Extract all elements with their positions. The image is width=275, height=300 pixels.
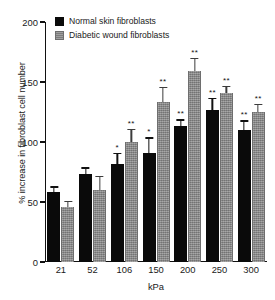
bar-group: ****	[235, 22, 267, 262]
significance-marker: **	[128, 120, 135, 127]
x-tick-label: 21	[45, 264, 77, 275]
error-bar	[99, 176, 100, 190]
bar-slot: *	[143, 22, 156, 262]
bar[interactable]: *	[143, 153, 156, 262]
bar-group	[77, 22, 109, 262]
x-tick-label: 106	[108, 264, 140, 275]
error-bar	[194, 58, 195, 71]
bar-slot: **	[174, 22, 187, 262]
x-tick-label: 250	[204, 264, 236, 275]
x-axis-ticks: 2152106150200250300	[45, 264, 267, 275]
error-bar	[131, 129, 132, 142]
bar[interactable]: *	[111, 164, 124, 262]
bar[interactable]: **	[157, 102, 170, 262]
error-bar	[180, 119, 181, 126]
y-tick-label: 0	[33, 257, 38, 268]
bar[interactable]: **	[238, 130, 251, 262]
significance-marker: *	[116, 144, 120, 151]
bar[interactable]: **	[188, 71, 201, 262]
error-bar	[244, 120, 245, 130]
significance-marker: **	[160, 78, 167, 85]
significance-marker: **	[255, 95, 262, 102]
bar-group: ****	[172, 22, 204, 262]
bar-slot	[79, 22, 92, 262]
bar-group: ***	[140, 22, 172, 262]
x-tick-label: 150	[140, 264, 172, 275]
bar-slot	[61, 22, 74, 262]
error-bar	[53, 186, 54, 192]
bar-group: ***	[108, 22, 140, 262]
x-tick-label: 300	[235, 264, 267, 275]
bar-slot	[47, 22, 60, 262]
bar[interactable]: **	[220, 93, 233, 262]
x-tick-label: 52	[77, 264, 109, 275]
bar[interactable]: **	[174, 126, 187, 262]
bar-slot: **	[252, 22, 265, 262]
bar-slot: **	[206, 22, 219, 262]
bar[interactable]: **	[206, 110, 219, 262]
error-bar	[67, 201, 68, 207]
x-tick-label: 200	[172, 264, 204, 275]
bar-slot: **	[188, 22, 201, 262]
bar-slot: **	[125, 22, 138, 262]
bar-slot: **	[220, 22, 233, 262]
significance-marker: **	[223, 77, 230, 84]
bar[interactable]: **	[252, 112, 265, 262]
bar[interactable]	[79, 174, 92, 262]
y-tick-label: 100	[22, 137, 38, 148]
bar-slot	[93, 22, 106, 262]
error-bar	[85, 167, 86, 174]
error-bar	[226, 86, 227, 93]
significance-marker: **	[177, 110, 184, 117]
bar[interactable]	[61, 207, 74, 262]
error-bar	[117, 153, 118, 164]
y-tick-label: 200	[22, 17, 38, 28]
plot-area: 050100150200 ******************	[45, 22, 267, 262]
significance-marker: **	[241, 111, 248, 118]
bar-group: ****	[204, 22, 236, 262]
bar[interactable]	[93, 190, 106, 262]
y-tick-label: 50	[28, 197, 38, 208]
significance-marker: *	[147, 128, 151, 135]
error-bar	[212, 98, 213, 110]
bar-groups: ******************	[45, 22, 267, 262]
error-bar	[162, 87, 163, 103]
bar-group	[45, 22, 77, 262]
significance-marker: **	[209, 89, 216, 96]
bar-slot: **	[238, 22, 251, 262]
bar-slot: *	[111, 22, 124, 262]
bar[interactable]: **	[125, 142, 138, 262]
bar-chart: % increase in fibroblast cell number Nor…	[0, 0, 275, 300]
error-bar	[258, 104, 259, 112]
y-axis-label: % increase in fibroblast cell number	[17, 33, 27, 233]
significance-marker: **	[191, 49, 198, 56]
error-bar	[148, 137, 149, 153]
y-tick-label: 150	[22, 77, 38, 88]
x-axis-label: kPa	[45, 281, 267, 292]
bar-slot: **	[157, 22, 170, 262]
bar[interactable]	[47, 192, 60, 262]
